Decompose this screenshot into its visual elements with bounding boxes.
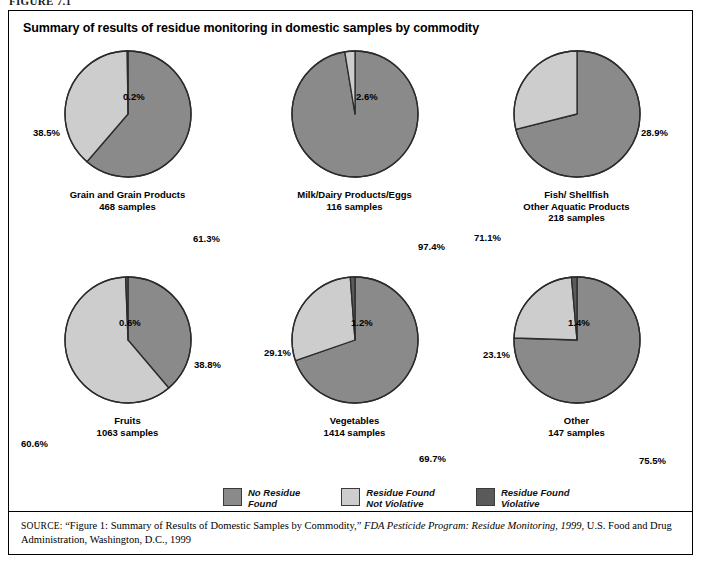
pie-caption-line: Grain and Grain Products — [15, 189, 240, 201]
pie-caption-line: 1414 samples — [242, 427, 467, 439]
source-text-before: “Figure 1: Summary of Results of Domesti… — [63, 520, 364, 531]
legend-not-violative: Residue FoundNot Violative — [341, 487, 435, 509]
pie-chart-other: 1.4%23.1%75.5%Other147 samples — [464, 275, 689, 490]
legend-not-violative-text: Residue FoundNot Violative — [366, 487, 435, 509]
pie-caption-line: Milk/Dairy Products/Eggs — [242, 189, 467, 201]
legend-no-residue: No ResidueFound — [223, 487, 300, 509]
pie-graphic-fish — [512, 49, 642, 179]
chart-legend: No ResidueFoundResidue FoundNot Violativ… — [223, 487, 570, 509]
pie-caption-fruits: Fruits1063 samples — [15, 415, 240, 438]
pie-caption-grain: Grain and Grain Products468 samples — [15, 189, 240, 212]
pie-caption-line: 116 samples — [242, 201, 467, 213]
pie-caption-line: 218 samples — [464, 212, 689, 224]
pie-percent-label-milk-1: 97.4% — [418, 241, 445, 252]
legend-line: Residue Found — [501, 487, 570, 498]
pie-caption-line: 1063 samples — [15, 427, 240, 439]
pie-caption-line: Vegetables — [242, 415, 467, 427]
figure-frame: Summary of results of residue monitoring… — [8, 10, 693, 555]
pie-graphic-other — [512, 275, 642, 405]
pie-chart-vegetables: 1.2%29.1%69.7%Vegetables1414 samples — [242, 275, 467, 490]
pie-graphic-vegetables — [290, 275, 420, 405]
pie-chart-fruits: 0.6%38.8%60.6%Fruits1063 samples — [15, 275, 240, 490]
pie-percent-label-grain-0: 0.2% — [123, 91, 145, 102]
legend-violative: Residue FoundViolative — [476, 487, 570, 509]
pie-percent-label-milk-0: 2.6% — [356, 91, 378, 102]
pie-percent-label-fruits-0: 0.6% — [119, 317, 141, 328]
pie-caption-line: Fish/ Shellfish — [464, 189, 689, 201]
pie-percent-label-other-2: 75.5% — [639, 455, 666, 466]
legend-line: Violative — [501, 498, 570, 509]
pie-slice-other-1 — [514, 277, 577, 340]
pie-chart-grain: 0.2%38.5%61.3%Grain and Grain Products46… — [15, 49, 240, 264]
legend-line: Not Violative — [366, 498, 435, 509]
pie-caption-line: Other — [464, 415, 689, 427]
page-title: Summary of results of residue monitoring… — [23, 21, 479, 35]
legend-violative-text: Residue FoundViolative — [501, 487, 570, 509]
legend-line: Residue Found — [366, 487, 435, 498]
pie-slice-grain-2 — [127, 51, 128, 114]
pie-caption-fish: Fish/ ShellfishOther Aquatic Products218… — [464, 189, 689, 224]
pie-percent-label-fish-1: 71.1% — [474, 232, 501, 243]
pie-caption-line: Other Aquatic Products — [464, 201, 689, 213]
pie-percent-label-vegetables-2: 69.7% — [419, 453, 446, 464]
divider — [9, 511, 692, 512]
source-note: SOURCE: “Figure 1: Summary of Results of… — [21, 519, 680, 547]
pie-caption-line: 468 samples — [15, 201, 240, 213]
pie-graphic-fruits — [63, 275, 193, 405]
legend-no-residue-swatch — [223, 488, 242, 506]
pie-percent-label-grain-2: 61.3% — [193, 233, 220, 244]
legend-not-violative-swatch — [341, 488, 360, 506]
pie-graphic-milk — [290, 49, 420, 179]
pie-percent-label-vegetables-1: 29.1% — [264, 347, 291, 358]
pie-caption-milk: Milk/Dairy Products/Eggs116 samples — [242, 189, 467, 212]
pie-percent-label-other-1: 23.1% — [483, 349, 510, 360]
figure-number-label: FIGURE 7.1 — [9, 0, 71, 7]
pie-caption-line: Fruits — [15, 415, 240, 427]
pie-percent-label-grain-1: 38.5% — [33, 127, 60, 138]
pie-chart-fish: 28.9%71.1%Fish/ ShellfishOther Aquatic P… — [464, 49, 689, 264]
pie-percent-label-fruits-2: 60.6% — [21, 438, 48, 449]
legend-violative-swatch — [476, 488, 495, 506]
legend-no-residue-text: No ResidueFound — [248, 487, 300, 509]
legend-line: No Residue — [248, 487, 300, 498]
pie-percent-label-fish-0: 28.9% — [641, 127, 668, 138]
pie-caption-other: Other147 samples — [464, 415, 689, 438]
source-publication-title: FDA Pesticide Program: Residue Monitorin… — [364, 520, 582, 531]
pie-percent-label-fruits-1: 38.8% — [194, 359, 221, 370]
legend-line: Found — [248, 498, 300, 509]
pie-graphic-grain — [63, 49, 193, 179]
source-lead-label: SOURCE: — [21, 521, 63, 531]
pie-percent-label-other-0: 1.4% — [568, 317, 590, 328]
pie-caption-vegetables: Vegetables1414 samples — [242, 415, 467, 438]
pie-percent-label-vegetables-0: 1.2% — [351, 317, 373, 328]
pie-chart-milk: 2.6%97.4%Milk/Dairy Products/Eggs116 sam… — [242, 49, 467, 264]
pie-caption-line: 147 samples — [464, 427, 689, 439]
